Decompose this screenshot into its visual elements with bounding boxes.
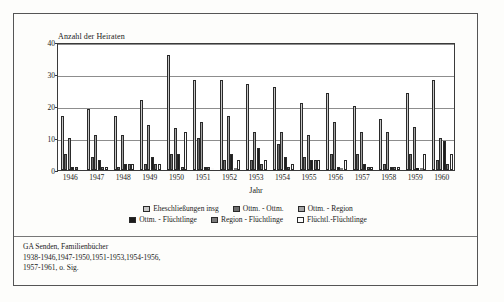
y-tick-30: 30 bbox=[39, 71, 55, 80]
legend-swatch-icon-5 bbox=[211, 217, 218, 223]
x-tick-1948: 1948 bbox=[116, 173, 131, 182]
bar-1960-series-1 bbox=[432, 80, 435, 170]
caption-line-2: 1938-1946,1947-1950,1951-1953,1954-1956, bbox=[23, 253, 161, 264]
caption-line-1: GA Senden, Familienbücher bbox=[23, 242, 161, 253]
y-tick-0: 0 bbox=[39, 167, 55, 176]
bar-group-1950 bbox=[164, 44, 191, 170]
x-tick-1950: 1950 bbox=[169, 173, 184, 182]
x-tick-1954: 1954 bbox=[275, 173, 290, 182]
bar-1960-series-6 bbox=[450, 154, 453, 170]
caption-divider bbox=[14, 236, 477, 237]
x-tick-1953: 1953 bbox=[249, 173, 264, 182]
legend-label-4: Ottm. - Flüchtlinge bbox=[139, 215, 197, 224]
bar-1959-series-3 bbox=[413, 127, 416, 170]
y-tick-40: 40 bbox=[39, 39, 55, 48]
bar-1958-series-6 bbox=[397, 167, 400, 170]
legend-swatch-icon-3 bbox=[298, 206, 305, 212]
x-tick-1960: 1960 bbox=[434, 173, 449, 182]
bar-1954-series-6 bbox=[291, 164, 294, 170]
bar-1958-series-3 bbox=[386, 132, 389, 170]
legend-label-2: Ottm. - Ottm. bbox=[243, 204, 284, 213]
legend-item-2[interactable]: Ottm. - Ottm. bbox=[233, 204, 284, 213]
x-tick-1949: 1949 bbox=[142, 173, 157, 182]
bar-1957-series-6 bbox=[370, 167, 373, 170]
x-axis-title: Jahr bbox=[57, 186, 455, 195]
legend-swatch-icon-2 bbox=[233, 206, 240, 212]
bar-1952-series-1 bbox=[220, 80, 223, 170]
legend-swatch-icon-4 bbox=[129, 217, 136, 223]
bar-group-1958 bbox=[376, 44, 403, 170]
legend-row-bottom: Ottm. - FlüchtlingeRegion - FlüchtlingeF… bbox=[38, 215, 458, 224]
bar-group-1956 bbox=[323, 44, 350, 170]
plot-area bbox=[57, 43, 455, 171]
bar-1952-series-6 bbox=[237, 160, 240, 170]
figure-page: Anzahl der Heiraten 010203040 1946194719… bbox=[0, 0, 504, 302]
x-tick-1959: 1959 bbox=[408, 173, 423, 182]
x-tick-1947: 1947 bbox=[89, 173, 104, 182]
x-tick-1952: 1952 bbox=[222, 173, 237, 182]
bar-group-1947 bbox=[85, 44, 112, 170]
x-tick-1946: 1946 bbox=[63, 173, 78, 182]
legend-row-top: Eheschließungen insgOttm. - Ottm.Ottm. -… bbox=[38, 204, 458, 213]
legend-label-3: Ottm. - Region bbox=[308, 204, 353, 213]
legend-item-5[interactable]: Region - Flüchtlinge bbox=[211, 215, 283, 224]
bars-layer bbox=[58, 44, 454, 170]
bar-group-1949 bbox=[138, 44, 165, 170]
legend-swatch-icon-6 bbox=[297, 217, 304, 223]
x-axis-tick-labels: 1946194719481949195019511952195319541955… bbox=[57, 173, 455, 185]
bar-group-1957 bbox=[350, 44, 377, 170]
bar-group-1951 bbox=[191, 44, 218, 170]
x-tick-1957: 1957 bbox=[355, 173, 370, 182]
bar-1948-series-1 bbox=[114, 116, 117, 170]
y-tick-20: 20 bbox=[39, 103, 55, 112]
bar-1953-series-6 bbox=[264, 160, 267, 170]
legend-label-1: Eheschließungen insg bbox=[153, 204, 219, 213]
bar-group-1953 bbox=[244, 44, 271, 170]
bar-1956-series-3 bbox=[333, 122, 336, 170]
x-tick-1955: 1955 bbox=[302, 173, 317, 182]
bar-1951-series-6 bbox=[211, 168, 214, 170]
bar-1959-series-6 bbox=[423, 154, 426, 170]
bar-1950-series-1 bbox=[167, 55, 170, 170]
bar-group-1946 bbox=[58, 44, 85, 170]
bar-1955-series-6 bbox=[317, 160, 320, 170]
y-tick-mark-0 bbox=[55, 171, 58, 172]
bar-group-1959 bbox=[403, 44, 430, 170]
bar-1946-series-6 bbox=[78, 168, 81, 170]
bar-1956-series-6 bbox=[344, 160, 347, 170]
bar-1947-series-6 bbox=[105, 167, 108, 170]
bar-group-1954 bbox=[270, 44, 297, 170]
legend-label-5: Region - Flüchtlinge bbox=[221, 215, 283, 224]
bar-1951-series-3 bbox=[200, 122, 203, 170]
bar-1949-series-1 bbox=[140, 100, 143, 170]
bar-1949-series-6 bbox=[158, 164, 161, 170]
bar-1950-series-6 bbox=[184, 132, 187, 170]
bar-1953-series-1 bbox=[246, 84, 249, 170]
legend-label-6: Flüchtl.-Flüchtlinge bbox=[307, 215, 367, 224]
legend-item-4[interactable]: Ottm. - Flüchtlinge bbox=[129, 215, 197, 224]
bar-1946-series-3 bbox=[68, 138, 71, 170]
legend-item-1[interactable]: Eheschließungen insg bbox=[143, 204, 219, 213]
bar-group-1952 bbox=[217, 44, 244, 170]
bar-group-1955 bbox=[297, 44, 324, 170]
legend-item-3[interactable]: Ottm. - Region bbox=[298, 204, 353, 213]
x-tick-1958: 1958 bbox=[381, 173, 396, 182]
x-tick-1956: 1956 bbox=[328, 173, 343, 182]
bar-group-1960 bbox=[429, 44, 456, 170]
bar-1948-series-6 bbox=[131, 164, 134, 170]
y-axis-tick-labels: 010203040 bbox=[38, 43, 55, 171]
chart-legend: Eheschließungen insgOttm. - Ottm.Ottm. -… bbox=[38, 204, 458, 226]
figure-frame: Anzahl der Heiraten 010203040 1946194719… bbox=[13, 13, 478, 286]
caption-line-3: 1957-1961, o. Sig. bbox=[23, 263, 161, 274]
y-axis-title: Anzahl der Heiraten bbox=[58, 32, 125, 41]
legend-item-6[interactable]: Flüchtl.-Flüchtlinge bbox=[297, 215, 367, 224]
legend-swatch-icon-1 bbox=[143, 206, 150, 212]
figure-caption: GA Senden, Familienbücher 1938-1946,1947… bbox=[23, 242, 161, 274]
chart-plot-wrapper: Anzahl der Heiraten 010203040 1946194719… bbox=[38, 32, 458, 202]
y-tick-10: 10 bbox=[39, 135, 55, 144]
bar-1958-series-1 bbox=[379, 119, 382, 170]
x-tick-1951: 1951 bbox=[195, 173, 210, 182]
bar-group-1948 bbox=[111, 44, 138, 170]
